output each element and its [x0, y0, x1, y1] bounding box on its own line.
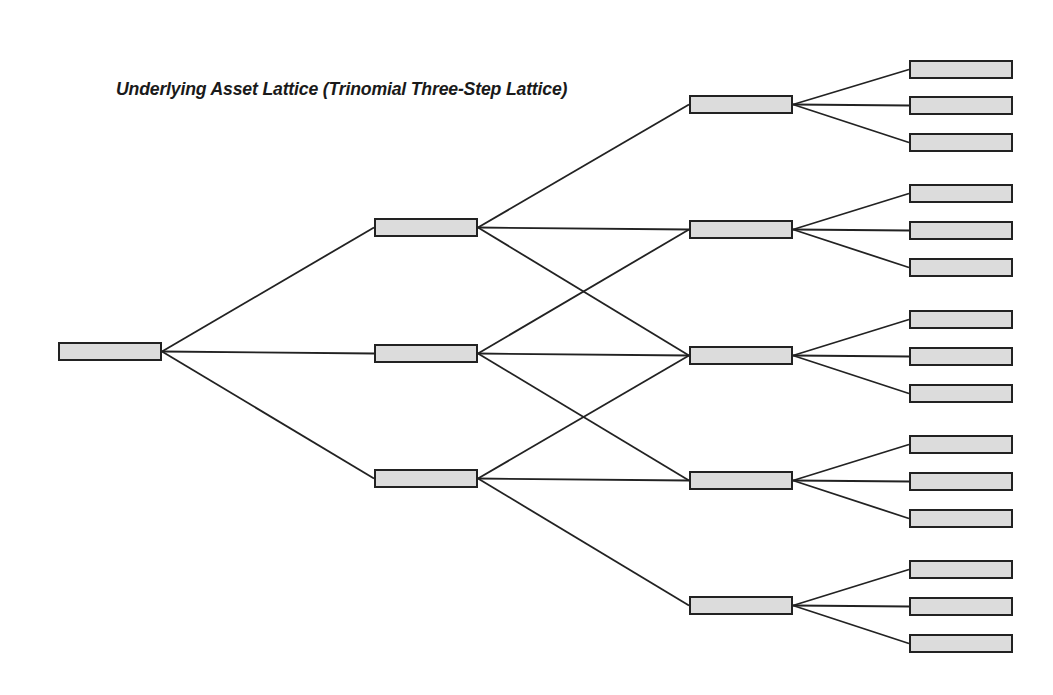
- lattice-node-step0-0: [58, 342, 162, 361]
- lattice-node-step3-6: [909, 310, 1013, 329]
- connector-line: [478, 228, 689, 230]
- lattice-node-step1-1: [374, 344, 478, 363]
- lattice-node-step2-3: [689, 471, 793, 490]
- connector-line: [478, 479, 689, 606]
- lattice-node-step3-14: [909, 634, 1013, 653]
- connector-line: [793, 445, 909, 481]
- lattice-node-step3-11: [909, 509, 1013, 528]
- connector-line: [793, 356, 909, 357]
- lattice-node-step2-4: [689, 596, 793, 615]
- connector-line: [793, 606, 909, 607]
- lattice-node-step3-2: [909, 133, 1013, 152]
- lattice-node-step3-9: [909, 435, 1013, 454]
- lattice-node-step3-0: [909, 60, 1013, 79]
- connector-line: [478, 105, 689, 228]
- connector-line: [793, 481, 909, 482]
- lattice-node-step2-1: [689, 220, 793, 239]
- connector-line: [162, 228, 374, 352]
- connector-line: [793, 481, 909, 519]
- connector-line: [793, 230, 909, 231]
- lattice-node-step3-1: [909, 96, 1013, 115]
- lattice-node-step3-12: [909, 560, 1013, 579]
- connector-line: [793, 70, 909, 105]
- connector-line: [793, 194, 909, 230]
- connector-line: [793, 570, 909, 606]
- lattice-node-step1-2: [374, 469, 478, 488]
- connector-line: [478, 356, 689, 479]
- lattice-node-step3-8: [909, 384, 1013, 403]
- connector-line: [793, 320, 909, 356]
- lattice-node-step3-3: [909, 184, 1013, 203]
- lattice-node-step3-13: [909, 597, 1013, 616]
- lattice-node-step2-0: [689, 95, 793, 114]
- connector-line: [478, 230, 689, 354]
- connector-line: [793, 230, 909, 268]
- connector-line: [793, 606, 909, 644]
- connector-line: [793, 105, 909, 143]
- connector-line: [162, 352, 374, 354]
- lattice-node-step3-7: [909, 347, 1013, 366]
- connector-line: [478, 479, 689, 481]
- connector-line: [793, 356, 909, 394]
- lattice-node-step3-4: [909, 221, 1013, 240]
- lattice-node-step1-0: [374, 218, 478, 237]
- connector-line: [793, 105, 909, 106]
- lattice-node-step3-10: [909, 472, 1013, 491]
- lattice-node-step2-2: [689, 346, 793, 365]
- connector-line: [478, 354, 689, 356]
- connector-line: [162, 352, 374, 479]
- lattice-node-step3-5: [909, 258, 1013, 277]
